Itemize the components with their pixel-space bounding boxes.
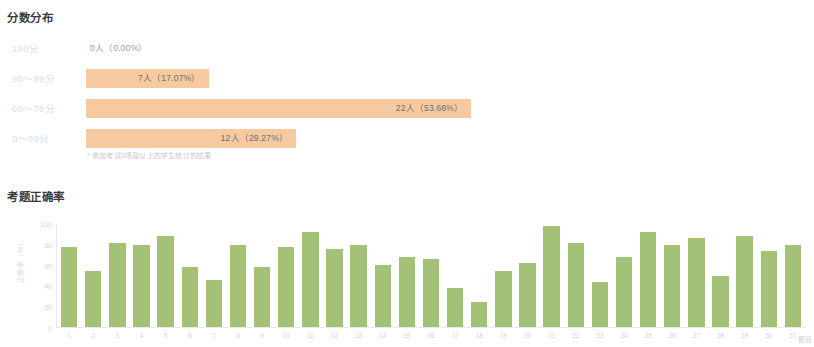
accuracy-bar	[761, 251, 777, 327]
accuracy-bar	[157, 236, 173, 327]
accuracy-bar-column: 3	[105, 224, 129, 327]
accuracy-bar	[688, 238, 704, 327]
x-axis-tick-label: 3	[105, 332, 129, 340]
accuracy-bar-column: 16	[419, 224, 443, 327]
x-axis-tick-label: 26	[660, 332, 684, 340]
x-axis-tick-label: 4	[129, 332, 153, 340]
accuracy-bar-column: 18	[467, 224, 491, 327]
accuracy-bar-column: 7	[202, 224, 226, 327]
x-axis-tick-label: 30	[757, 332, 781, 340]
x-axis-tick-label: 21	[540, 332, 564, 340]
distribution-row-label: 80～99分	[12, 66, 78, 92]
accuracy-bar	[278, 247, 294, 327]
x-axis-tick-label: 6	[178, 332, 202, 340]
x-axis-line	[56, 327, 806, 328]
x-axis-tick-label: 12	[322, 332, 346, 340]
accuracy-bar	[712, 276, 728, 328]
x-axis-title: 题目	[798, 334, 812, 344]
accuracy-bar	[423, 259, 439, 327]
x-axis-tick-label: 28	[708, 332, 732, 340]
accuracy-bar	[182, 267, 198, 327]
x-axis-tick-label: 2	[81, 332, 105, 340]
x-axis-tick-label: 24	[612, 332, 636, 340]
accuracy-bar-column: 31	[781, 224, 805, 327]
accuracy-bar	[543, 226, 559, 327]
accuracy-bar-column: 26	[660, 224, 684, 327]
x-axis-tick-label: 5	[154, 332, 178, 340]
distribution-value-label: 22人（53.66%）	[86, 99, 471, 118]
accuracy-bar-column: 27	[684, 224, 708, 327]
accuracy-bar	[375, 265, 391, 327]
x-axis-tick-label: 17	[443, 332, 467, 340]
y-axis-tick-label: 20	[26, 304, 52, 311]
x-axis-tick-label: 29	[733, 332, 757, 340]
x-axis-tick-label: 18	[467, 332, 491, 340]
accuracy-bar	[471, 302, 487, 327]
page-title-score-distribution: 分数分布	[7, 9, 53, 25]
x-axis-tick-label: 15	[395, 332, 419, 340]
accuracy-bar	[736, 236, 752, 327]
distribution-row: 100分0人（0.00%）	[0, 36, 814, 62]
x-axis-tick-label: 25	[636, 332, 660, 340]
x-axis-tick-label: 13	[347, 332, 371, 340]
accuracy-bar	[326, 249, 342, 327]
accuracy-plot-area: 1234567891011121314151617181920212223242…	[57, 224, 805, 327]
accuracy-bar-column: 28	[708, 224, 732, 327]
accuracy-bar	[109, 243, 125, 327]
accuracy-bar	[133, 245, 149, 327]
accuracy-bar-column: 6	[178, 224, 202, 327]
x-axis-tick-label: 23	[588, 332, 612, 340]
x-axis-tick-label: 27	[684, 332, 708, 340]
accuracy-bar	[399, 257, 415, 327]
accuracy-bar	[254, 267, 270, 327]
accuracy-bar	[616, 257, 632, 327]
accuracy-bar-column: 8	[226, 224, 250, 327]
y-axis-tick-label: 80	[26, 242, 52, 249]
accuracy-bar	[785, 245, 801, 327]
distribution-bar-track: 22人（53.66%）	[86, 96, 804, 122]
accuracy-bar-column: 19	[491, 224, 515, 327]
x-axis-tick-label: 1	[57, 332, 81, 340]
accuracy-bar-column: 21	[540, 224, 564, 327]
x-axis-tick-label: 22	[564, 332, 588, 340]
accuracy-bar	[230, 245, 246, 327]
y-axis-tick-label: 100	[26, 221, 52, 228]
accuracy-bar	[592, 282, 608, 327]
accuracy-bar	[350, 245, 366, 327]
y-axis-tick-label: 0	[26, 325, 52, 332]
accuracy-bar-column: 13	[347, 224, 371, 327]
x-axis-tick-label: 20	[515, 332, 539, 340]
x-axis-tick-label: 19	[491, 332, 515, 340]
x-axis-tick-label: 8	[226, 332, 250, 340]
y-axis-title: 正确率（%）	[15, 231, 25, 291]
distribution-row-label: 0～59分	[12, 126, 78, 152]
distribution-value-label: 7人（17.07%）	[86, 69, 209, 88]
accuracy-bar	[206, 280, 222, 327]
accuracy-bar-column: 22	[564, 224, 588, 327]
accuracy-bar	[640, 232, 656, 327]
x-axis-tick-label: 11	[298, 332, 322, 340]
distribution-row: 80～99分7人（17.07%）	[0, 66, 814, 92]
accuracy-bar	[302, 232, 318, 327]
accuracy-bar-column: 10	[274, 224, 298, 327]
accuracy-bar	[519, 263, 535, 327]
score-distribution-chart: 100分0人（0.00%）80～99分7人（17.07%）60～79分22人（5…	[0, 36, 814, 171]
accuracy-bar-column: 2	[81, 224, 105, 327]
page-title-question-accuracy: 考题正确率	[7, 188, 65, 204]
accuracy-bar-column: 5	[154, 224, 178, 327]
y-axis-tick-label: 60	[26, 263, 52, 270]
distribution-row-label: 60～79分	[12, 96, 78, 122]
accuracy-bar-column: 29	[733, 224, 757, 327]
accuracy-bar	[664, 245, 680, 327]
x-axis-tick-label: 14	[371, 332, 395, 340]
distribution-footnote: * 参加考试3场及以上的学生统计的结果	[87, 150, 211, 160]
x-axis-tick-label: 9	[250, 332, 274, 340]
accuracy-bar-column: 14	[371, 224, 395, 327]
accuracy-bar-column: 20	[515, 224, 539, 327]
y-axis-tick-label: 40	[26, 283, 52, 290]
distribution-bar-track: 12人（29.27%）	[86, 126, 804, 152]
accuracy-bar-column: 25	[636, 224, 660, 327]
x-axis-tick-label: 7	[202, 332, 226, 340]
accuracy-bar-column: 23	[588, 224, 612, 327]
distribution-bar-track: 0人（0.00%）	[86, 36, 804, 62]
